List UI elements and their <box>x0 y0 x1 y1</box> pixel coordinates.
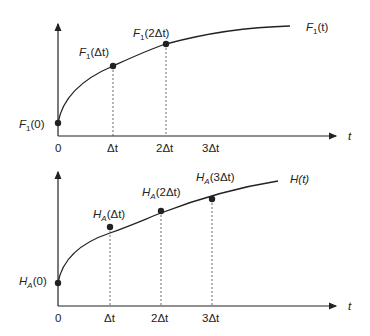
top-label-fdt: F1(Δt) <box>79 46 109 61</box>
top-plot: F1(0) F1(Δt) F1(2Δt) F1(t) t 0 Δt 2Δt 3Δ… <box>19 21 352 154</box>
bottom-tick-3dt: 3Δt <box>202 312 220 324</box>
bottom-point-0 <box>55 280 61 286</box>
top-point-2dt <box>163 41 169 47</box>
bottom-point-dt <box>107 224 113 230</box>
bottom-curve-label: H(t) <box>290 173 309 185</box>
diagram-canvas: F1(0) F1(Δt) F1(2Δt) F1(t) t 0 Δt 2Δt 3Δ… <box>0 0 370 336</box>
bottom-label-h2dt: HA(2Δt) <box>142 186 181 201</box>
bottom-axis-t-label: t <box>348 300 352 312</box>
bottom-tick-dt: Δt <box>104 312 116 324</box>
bottom-tick-0: 0 <box>55 312 61 324</box>
bottom-point-2dt <box>158 208 164 214</box>
top-point-0 <box>55 120 61 126</box>
bottom-label-hdt: HA(Δt) <box>93 208 125 223</box>
bottom-label-h3dt: HA(3Δt) <box>196 171 235 186</box>
top-axis-t-label: t <box>348 130 352 142</box>
top-tick-dt: Δt <box>107 142 119 154</box>
top-label-f0: F1(0) <box>19 118 45 133</box>
top-tick-0: 0 <box>55 142 61 154</box>
bottom-plot: HA(0) HA(Δt) HA(2Δt) HA(3Δt) H(t) t 0 Δt… <box>19 171 352 324</box>
bottom-point-3dt <box>209 196 215 202</box>
top-curve-label: F1(t) <box>306 21 329 36</box>
bottom-tick-2dt: 2Δt <box>151 312 169 324</box>
top-point-dt <box>110 63 116 69</box>
bottom-label-h0: HA(0) <box>19 275 47 290</box>
top-label-f2dt: F1(2Δt) <box>133 27 170 42</box>
top-curve <box>58 26 290 123</box>
top-tick-3dt: 3Δt <box>202 142 220 154</box>
top-tick-2dt: 2Δt <box>156 142 174 154</box>
